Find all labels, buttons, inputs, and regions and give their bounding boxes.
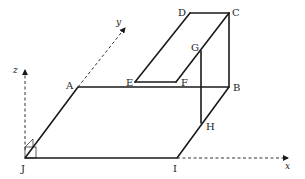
base-parallelogram-JABI	[25, 87, 229, 158]
label-H: H	[206, 121, 215, 132]
label-J: J	[20, 163, 25, 174]
geometry-diagram: A B C D E F G H I J x y z	[0, 0, 305, 179]
y-axis	[78, 28, 125, 87]
label-F: F	[181, 77, 188, 88]
label-A: A	[65, 80, 74, 91]
label-x-axis: x	[285, 161, 290, 171]
label-I: I	[173, 163, 177, 174]
edge-DE	[135, 13, 190, 82]
label-E: E	[126, 77, 133, 88]
label-C: C	[232, 7, 240, 18]
label-B: B	[233, 82, 240, 93]
label-z-axis: z	[12, 65, 18, 75]
label-y-axis: y	[115, 17, 122, 27]
label-G: G	[191, 42, 199, 53]
label-D: D	[178, 7, 186, 18]
edge-FC	[176, 13, 229, 82]
